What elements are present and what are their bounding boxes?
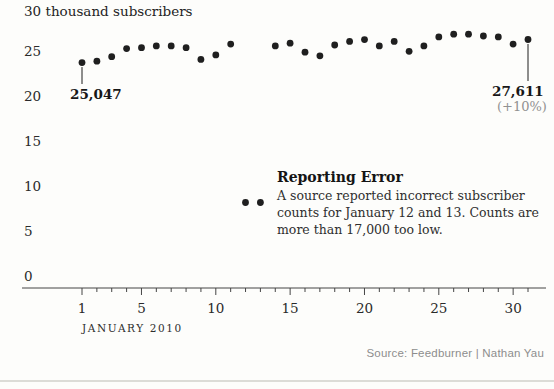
data-point-day-6 <box>153 43 160 50</box>
data-point-day-7 <box>168 43 175 50</box>
data-point-day-2 <box>94 58 101 65</box>
data-point-day-10 <box>212 52 219 59</box>
subscriber-scatter-chart: 30 thousand subscribers 2520151050 15101… <box>0 0 554 389</box>
data-point-day-18 <box>331 42 338 49</box>
data-point-day-16 <box>302 49 309 56</box>
data-point-day-21 <box>376 43 383 50</box>
data-point-day-28 <box>480 33 487 40</box>
x-axis-label-10: 10 <box>207 300 224 316</box>
y-axis-label-20: 20 <box>24 88 41 104</box>
data-point-day-5 <box>138 44 145 51</box>
data-point-day-11 <box>227 41 234 48</box>
data-point-day-30 <box>510 41 517 48</box>
x-axis-title: JANUARY 2010 <box>82 322 183 334</box>
data-point-day-20 <box>361 36 368 43</box>
y-axis-label-10: 10 <box>24 178 41 194</box>
x-axis-label-15: 15 <box>282 300 299 316</box>
start-value-annotation: 25,047 <box>70 86 122 102</box>
data-point-day-15 <box>287 40 294 47</box>
data-point-day-23 <box>406 48 413 55</box>
y-axis-label-15: 15 <box>24 133 41 149</box>
data-point-day-27 <box>465 31 472 38</box>
x-axis-label-25: 25 <box>430 300 447 316</box>
end-value-annotation: 27,611 <box>492 83 544 99</box>
x-axis-label-20: 20 <box>356 300 373 316</box>
y-axis-label-0: 0 <box>24 268 33 284</box>
data-point-day-12 <box>242 199 249 206</box>
data-point-day-22 <box>391 38 398 45</box>
data-point-day-31 <box>525 36 532 43</box>
data-point-day-25 <box>435 34 442 41</box>
data-point-day-14 <box>272 43 279 50</box>
chart-title: 30 thousand subscribers <box>24 3 193 19</box>
y-axis-label-25: 25 <box>24 43 41 59</box>
reporting-error-line: A source reported incorrect subscriber <box>277 187 547 204</box>
data-point-day-3 <box>108 53 115 60</box>
data-point-day-4 <box>123 45 130 52</box>
end-percent-annotation: (+10%) <box>497 99 547 114</box>
bottom-divider <box>0 380 554 382</box>
data-point-day-19 <box>346 38 353 45</box>
data-point-day-8 <box>183 44 190 51</box>
reporting-error-line: counts for January 12 and 13. Counts are <box>277 204 547 221</box>
reporting-error-title: Reporting Error <box>277 168 547 187</box>
data-point-day-13 <box>257 199 264 206</box>
data-point-day-29 <box>495 34 502 41</box>
reporting-error-line: more than 17,000 too low. <box>277 221 547 238</box>
source-credit: Source: Feedburner | Nathan Yau <box>366 347 544 359</box>
reporting-error-note: Reporting Error A source reported incorr… <box>277 168 547 239</box>
data-point-day-9 <box>198 56 205 63</box>
data-point-day-17 <box>317 52 324 59</box>
x-axis-label-1: 1 <box>78 300 87 316</box>
data-point-day-1 <box>79 59 86 66</box>
x-axis-label-5: 5 <box>137 300 146 316</box>
y-axis-label-5: 5 <box>24 223 33 239</box>
x-axis-label-30: 30 <box>505 300 522 316</box>
data-point-day-24 <box>421 43 428 50</box>
data-point-day-26 <box>450 31 457 38</box>
